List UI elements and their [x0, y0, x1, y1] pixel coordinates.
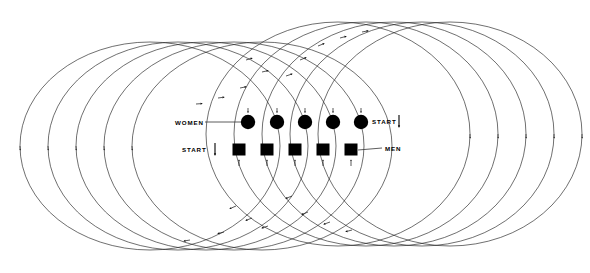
right-direction-arrows: [286, 31, 368, 232]
marker-tick-arrows: [239, 108, 361, 166]
women-marker: [326, 115, 340, 129]
start-label-right: START: [372, 118, 397, 125]
men-leader-line: [358, 148, 382, 150]
women-label: WOMEN: [175, 119, 204, 126]
men-marker: [289, 144, 302, 156]
men-label: MEN: [385, 145, 401, 152]
men-marker: [261, 144, 274, 156]
track-ellipse-right-2: [234, 22, 498, 246]
women-start-markers: [241, 115, 368, 129]
men-marker: [233, 144, 246, 156]
men-marker: [317, 144, 330, 156]
track-ellipse-right-5: [318, 22, 582, 246]
diagram-page: WOMEN MEN START START: [0, 0, 590, 273]
men-start-markers: [233, 144, 358, 156]
right-track-group: [206, 22, 582, 246]
start-label-left: START: [182, 146, 207, 153]
track-diagram-svg: WOMEN MEN START START: [0, 0, 590, 273]
women-marker: [241, 115, 255, 129]
men-marker: [345, 144, 358, 156]
women-marker: [354, 115, 368, 129]
women-marker: [270, 115, 284, 129]
track-ellipse-right-1: [206, 22, 470, 246]
women-marker: [298, 115, 312, 129]
track-ellipse-right-4: [290, 22, 554, 246]
track-ellipse-right-3: [262, 22, 526, 246]
